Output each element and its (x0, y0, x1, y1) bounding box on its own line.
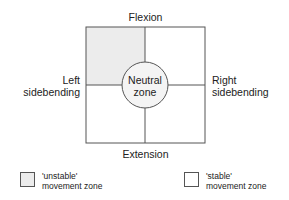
legend-swatch-stable (184, 172, 199, 187)
legend-swatch-unstable (20, 172, 35, 187)
flexion-label: Flexion (86, 11, 205, 23)
center-label-line2: zone (120, 86, 170, 98)
right-label-line2: sidebending (212, 86, 289, 98)
legend-stable-line1: 'stable' (206, 171, 266, 181)
legend-unstable-line2: movement zone (42, 181, 102, 191)
neutral-zone-label: Neutral zone (120, 74, 170, 98)
left-sidebending-label: Left sidebending (0, 74, 80, 98)
legend-unstable-line1: 'unstable' (42, 171, 102, 181)
legend-item-unstable: 'unstable' movement zone (42, 171, 102, 191)
left-label-line2: sidebending (0, 86, 80, 98)
right-label-line1: Right (212, 74, 289, 86)
quadrant-diagram (0, 0, 289, 200)
extension-label: Extension (86, 148, 205, 160)
left-label-line1: Left (0, 74, 80, 86)
right-sidebending-label: Right sidebending (212, 74, 289, 98)
legend-stable-line2: movement zone (206, 181, 266, 191)
center-label-line1: Neutral (120, 74, 170, 86)
legend-item-stable: 'stable' movement zone (206, 171, 266, 191)
